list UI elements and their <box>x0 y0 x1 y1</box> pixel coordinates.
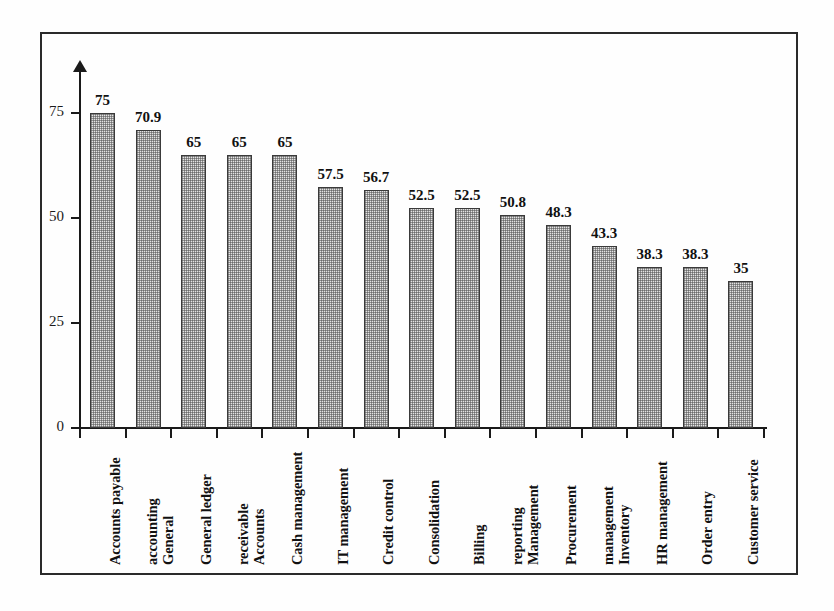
x-tick-mark <box>216 429 218 438</box>
bar <box>90 113 115 428</box>
x-category-label: managementInventory <box>588 437 620 567</box>
x-tick-mark <box>398 429 400 438</box>
x-category-label-line: Consolidation <box>426 480 443 565</box>
x-category-label-line: Billing <box>471 525 488 565</box>
y-tick-mark <box>71 112 80 114</box>
x-category-label-line: Management <box>525 485 542 565</box>
bar-value-label: 35 <box>715 260 766 277</box>
x-category-label-line: Accounts <box>251 509 268 565</box>
x-category-label-line: General ledger <box>198 474 215 565</box>
x-tick-mark <box>261 429 263 438</box>
bar-value-label: 57.5 <box>305 166 356 183</box>
x-category-label: receivableAccounts <box>223 437 255 567</box>
x-tick-mark <box>170 429 172 438</box>
y-tick-mark <box>71 217 80 219</box>
x-category-label: IT management <box>323 437 339 567</box>
bar <box>181 155 206 428</box>
x-category-label-line: Inventory <box>616 505 633 565</box>
x-tick-mark <box>717 429 719 438</box>
x-tick-mark <box>763 429 765 438</box>
bar <box>272 155 297 428</box>
bar-value-label: 65 <box>168 134 219 151</box>
x-category-label: Customer service <box>733 437 749 567</box>
x-category-label: Cash management <box>277 437 293 567</box>
x-category-label: HR management <box>642 437 658 567</box>
bar <box>592 246 617 428</box>
x-tick-mark <box>444 429 446 438</box>
x-tick-mark <box>489 429 491 438</box>
bar-value-label: 75 <box>77 92 128 109</box>
bar <box>409 208 434 429</box>
x-tick-mark <box>353 429 355 438</box>
bar <box>455 208 480 429</box>
y-axis-line <box>79 68 81 430</box>
bar-value-label: 38.3 <box>624 246 675 263</box>
bar <box>136 130 161 428</box>
bar-value-label: 70.9 <box>123 109 174 126</box>
bar <box>546 225 571 428</box>
x-category-label: Billing <box>459 437 475 567</box>
y-tick-label: 75 <box>22 103 64 120</box>
bar <box>364 190 389 428</box>
bar-value-label: 56.7 <box>351 169 402 186</box>
x-tick-mark <box>535 429 537 438</box>
x-category-label-line: Accounts payable <box>107 457 124 565</box>
bar-value-label: 65 <box>214 134 265 151</box>
x-category-label: Consolidation <box>414 437 430 567</box>
x-category-label-line: IT management <box>335 468 352 565</box>
plot-area: 0255075 7570.965656557.556.752.552.550.8… <box>0 0 834 611</box>
x-category-label-line: General <box>160 516 177 565</box>
x-category-label-line: Cash management <box>289 452 306 565</box>
bar-value-label: 65 <box>259 134 310 151</box>
y-axis-arrow-icon <box>73 60 87 72</box>
x-category-label: Accounts payable <box>95 437 111 567</box>
bar <box>227 155 252 428</box>
x-category-label-line: HR management <box>654 461 671 565</box>
bar-value-label: 43.3 <box>579 225 630 242</box>
bar <box>500 215 525 428</box>
x-category-label-line: Customer service <box>745 459 762 565</box>
bar <box>683 267 708 428</box>
x-tick-mark <box>307 429 309 438</box>
y-tick-label: 25 <box>22 313 64 330</box>
bar-value-label: 52.5 <box>442 187 493 204</box>
x-category-label: Order entry <box>687 437 703 567</box>
x-category-label: General ledger <box>186 437 202 567</box>
x-category-label: Credit control <box>368 437 384 567</box>
bar-value-label: 48.3 <box>533 204 584 221</box>
figure: 0255075 7570.965656557.556.752.552.550.8… <box>0 0 834 611</box>
x-tick-mark <box>626 429 628 438</box>
bar-value-label: 52.5 <box>396 187 447 204</box>
x-tick-mark <box>79 429 81 438</box>
x-category-label-line: Order entry <box>699 491 716 565</box>
x-tick-mark <box>672 429 674 438</box>
y-tick-label: 0 <box>22 418 64 435</box>
x-tick-mark <box>125 429 127 438</box>
x-category-label-line: Credit control <box>380 479 397 565</box>
x-tick-mark <box>581 429 583 438</box>
y-tick-mark <box>71 322 80 324</box>
x-category-label: reportingManagement <box>497 437 529 567</box>
y-tick-label: 50 <box>22 208 64 225</box>
bar <box>728 281 753 428</box>
bar <box>318 187 343 429</box>
x-category-label-line: Procurement <box>563 485 580 565</box>
bar-value-label: 38.3 <box>670 246 721 263</box>
x-category-label: Procurement <box>551 437 567 567</box>
x-category-label: accountingGeneral <box>132 437 164 567</box>
bar-value-label: 50.8 <box>487 194 538 211</box>
bar <box>637 267 662 428</box>
